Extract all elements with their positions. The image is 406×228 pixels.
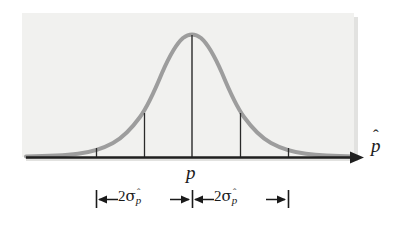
hat-accent-icon: ˆ: [373, 127, 379, 144]
sigma-icon-left: σ: [126, 187, 136, 205]
bracket-left-arrow-head-a-icon: [98, 196, 107, 204]
measure-right-subscript: ˆp: [232, 195, 238, 206]
hat-accent-icon: ˆ: [137, 188, 140, 198]
axis-label-p-hat-glyph: ˆp: [371, 136, 381, 155]
measure-label-left: 2σˆp: [118, 189, 141, 204]
bracket-left-arrow-head-b-icon: [181, 196, 190, 204]
normal-distribution-figure: | --> ˆp p 2σˆp 2σˆp: [0, 0, 406, 228]
hat-accent-icon: ˆ: [233, 188, 236, 198]
measure-label-right: 2σˆp: [214, 189, 237, 204]
mean-label-p: p: [186, 163, 196, 182]
measure-left-subscript: ˆp: [136, 195, 142, 206]
bracket-right-arrow-head-a-icon: [194, 196, 203, 204]
measure-left-number: 2: [118, 188, 126, 204]
bracket-right-arrow-head-b-icon: [277, 196, 286, 204]
measure-right-number: 2: [214, 188, 222, 204]
sigma-icon-right: σ: [222, 187, 232, 205]
measure-right-subscript-glyph: ˆp: [232, 195, 238, 206]
measure-left-subscript-glyph: ˆp: [136, 195, 142, 206]
axis-label-p-hat: ˆp: [371, 136, 381, 155]
